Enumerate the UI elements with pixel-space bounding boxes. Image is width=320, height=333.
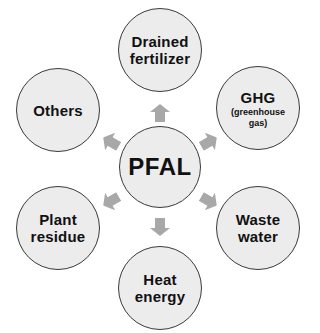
node-label-line1: Heat <box>143 271 176 288</box>
node-label-line1: Drained <box>131 33 188 50</box>
center-node-pfal: PFAL <box>119 126 201 208</box>
arrow-up-icon <box>150 104 170 122</box>
arrow-up-left-icon <box>98 129 124 155</box>
node-drained-fertilizer: Drained fertilizer <box>118 8 202 92</box>
node-label-line1: Others <box>33 102 83 119</box>
node-heat-energy: Heat energy <box>118 246 202 330</box>
arrow-up-right-icon <box>196 129 222 155</box>
node-label-line1: GHG <box>241 89 276 106</box>
arrow-down-right-icon <box>196 188 222 214</box>
node-label-line2: water <box>238 228 278 245</box>
arrow-down-icon <box>150 218 170 236</box>
node-ghg: GHG (greenhouse gas) <box>216 66 300 150</box>
node-sublabel-line2: gas) <box>249 118 268 128</box>
center-node-label: PFAL <box>128 154 191 180</box>
arrow-down-left-icon <box>98 188 124 214</box>
node-label-line1: Plant <box>39 211 77 228</box>
node-others: Others <box>16 68 100 152</box>
node-plant-residue: Plant residue <box>16 186 100 270</box>
node-waste-water: Waste water <box>216 186 300 270</box>
node-sublabel-line1: (greenhouse <box>231 107 285 117</box>
node-label-line2: fertilizer <box>130 50 190 67</box>
node-label-line2: residue <box>31 228 86 245</box>
node-label-line2: energy <box>135 288 185 305</box>
node-label-line1: Waste <box>236 211 281 228</box>
